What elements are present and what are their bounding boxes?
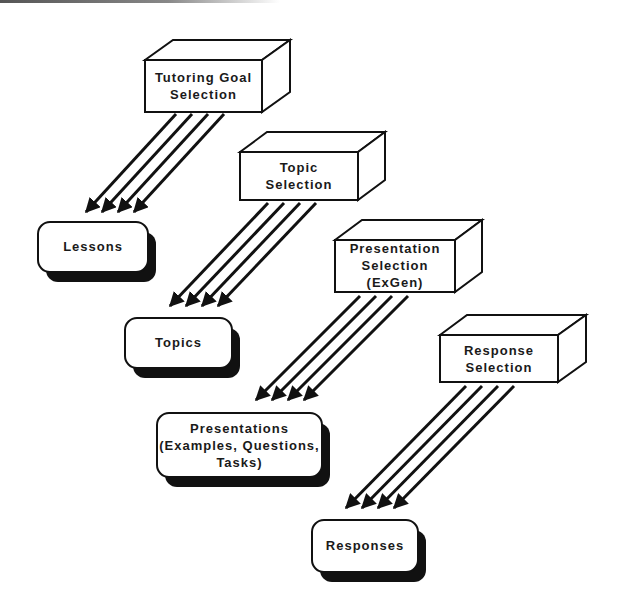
label-lessons: Lessons (38, 238, 148, 255)
label-responses: Responses (312, 537, 418, 554)
arrows-goal-to-lessons (86, 114, 224, 212)
diagram-canvas (0, 0, 623, 612)
label-topic-selection: Topic Selection (240, 159, 358, 193)
label-response-selection: Response Selection (440, 342, 558, 376)
label-topics: Topics (125, 334, 232, 351)
arrows-presentation-to-presentations (256, 296, 408, 400)
label-presentations: Presentations (Examples, Questions, Task… (157, 420, 322, 471)
label-goal-selection: Tutoring Goal Selection (145, 69, 262, 103)
arrows-response-to-responses (346, 386, 514, 508)
arrows-topic-to-topics (170, 203, 316, 306)
label-presentation-selection: Presentation Selection (ExGen) (335, 240, 455, 291)
